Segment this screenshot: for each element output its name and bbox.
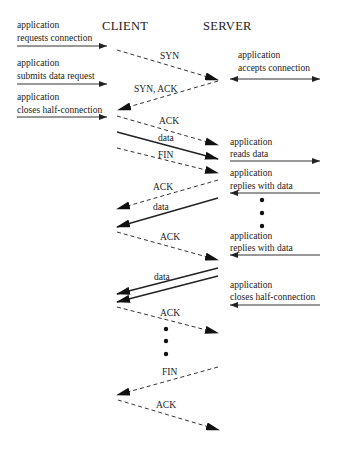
- client-event-line2: requests connection: [17, 33, 92, 43]
- message-label: SYN: [160, 51, 179, 61]
- server-event-line2: accepts connection: [238, 63, 310, 73]
- ellipsis-dot: [260, 211, 264, 215]
- server-event-line2: replies with data: [230, 181, 294, 191]
- ellipsis-dot: [164, 339, 168, 343]
- client-event-line1: application: [17, 92, 59, 102]
- server-event-line1: application: [230, 137, 272, 147]
- ellipsis-dot: [164, 327, 168, 331]
- client-event-requests-connection: application requests connection: [17, 20, 107, 46]
- message-ack-5: ACK: [118, 400, 219, 430]
- server-event-accepts-connection: application accepts connection: [230, 50, 320, 79]
- message-label: ACK: [156, 400, 176, 410]
- message-label: ACK: [159, 116, 179, 126]
- server-event-line1: application: [238, 50, 280, 60]
- server-header: SERVER: [203, 19, 252, 33]
- client-header: CLIENT: [102, 19, 148, 33]
- server-event-line1: application: [230, 231, 272, 241]
- message-label: ACK: [160, 232, 180, 242]
- ellipsis-dot: [260, 224, 264, 228]
- message-fin-2: FIN: [117, 367, 218, 395]
- message-label: ACK: [160, 308, 180, 318]
- message-data-2: data: [117, 198, 218, 227]
- server-event-closes-half-connection: application closes half-connection: [230, 280, 320, 305]
- server-event-replies-with-data-2: application replies with data: [230, 231, 320, 255]
- server-event-line1: application: [230, 280, 272, 290]
- message-label: data: [158, 133, 175, 143]
- message-ack-3: ACK: [117, 232, 218, 260]
- message-label: FIN: [158, 150, 173, 160]
- client-event-submits-data-request: application submits data request: [17, 58, 107, 84]
- client-event-line1: application: [17, 20, 59, 30]
- message-data-3: data: [117, 268, 218, 302]
- server-event-reads-data: application reads data: [230, 137, 320, 161]
- client-event-line1: application: [17, 58, 59, 68]
- server-event-line2: closes half-connection: [230, 292, 315, 302]
- message-syn: SYN: [117, 50, 218, 80]
- message-label: SYN, ACK: [134, 84, 177, 94]
- client-event-closes-half-connection: application closes half-connection: [17, 92, 107, 117]
- message-label: ACK: [153, 182, 173, 192]
- server-event-line1: application: [230, 168, 272, 178]
- ellipsis-dot: [164, 352, 168, 356]
- message-label: data: [153, 202, 170, 212]
- message-label: data: [154, 272, 171, 282]
- server-ellipsis: [260, 198, 264, 228]
- server-event-line2: replies with data: [230, 243, 294, 253]
- server-event-replies-with-data-1: application replies with data: [230, 168, 320, 193]
- ellipsis-dot: [260, 198, 264, 202]
- tcp-sequence-diagram: CLIENT SERVER application requests conne…: [0, 0, 337, 458]
- message-fin-1: FIN: [117, 148, 218, 173]
- message-label: FIN: [162, 367, 177, 377]
- client-event-line2: closes half-connection: [17, 105, 102, 115]
- server-event-line2: reads data: [230, 149, 269, 159]
- client-event-line2: submits data request: [17, 71, 95, 81]
- client-ellipsis: [164, 327, 168, 356]
- message-syn-ack: SYN, ACK: [118, 81, 218, 110]
